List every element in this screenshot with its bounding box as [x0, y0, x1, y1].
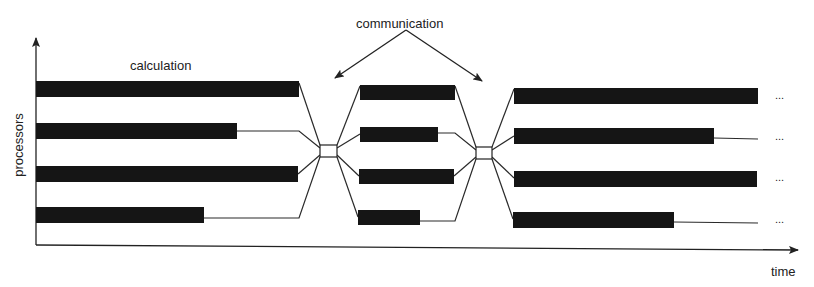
connections-phase1-to-node1 — [204, 83, 320, 218]
bar-p3-proc4 — [513, 212, 674, 228]
parallel-computation-diagram: processors time calculation communicatio… — [0, 0, 814, 287]
bar-p1-proc3 — [36, 166, 298, 182]
arrow-to-node-1 — [335, 30, 406, 78]
bar-p3-proc2 — [514, 128, 714, 144]
continuation-markers: ... ... ... ... — [775, 89, 784, 225]
calculation-label: calculation — [130, 58, 191, 73]
bar-p2-proc1 — [360, 85, 455, 100]
bar-p2-proc3 — [359, 169, 454, 184]
bar-p1-proc2 — [36, 123, 237, 139]
ellipsis-proc4: ... — [775, 213, 784, 225]
bar-p2-proc2 — [360, 127, 438, 142]
communication-label: communication — [356, 16, 443, 31]
bar-p2-proc4 — [358, 210, 420, 225]
connections-node1-to-phase2 — [337, 86, 360, 217]
bar-p1-proc4 — [36, 207, 204, 223]
calculation-bars-phase2 — [358, 85, 455, 225]
connections-phase2-to-node2 — [420, 86, 476, 221]
arrow-to-node-2 — [406, 30, 482, 81]
bar-p3-proc1 — [514, 88, 758, 104]
communication-node-2 — [476, 147, 492, 159]
x-axis-label: time — [771, 264, 796, 279]
calculation-bars-phase1 — [36, 81, 299, 223]
connections-node2-to-phase3 — [492, 89, 514, 219]
ellipsis-proc3: ... — [775, 171, 784, 183]
y-axis-label: processors — [11, 113, 26, 177]
communication-arrows — [335, 30, 482, 81]
bar-p1-proc1 — [36, 81, 299, 97]
calculation-bars-phase3 — [513, 88, 758, 228]
ellipsis-proc1: ... — [775, 89, 784, 101]
x-axis — [36, 245, 798, 250]
communication-node-1 — [320, 145, 337, 157]
bar-p3-proc3 — [514, 171, 757, 187]
ellipsis-proc2: ... — [775, 130, 784, 142]
